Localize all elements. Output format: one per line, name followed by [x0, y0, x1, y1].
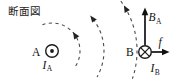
cross-section-diagram: 断面図 A IA B IB BA f: [0, 0, 172, 82]
wire-a: A IA: [32, 45, 58, 73]
field-direction-arrowhead: [90, 16, 97, 23]
figure-caption: 断面図: [8, 5, 40, 17]
field-line-arc-middle: [93, 19, 104, 77]
force-vector-f: f: [152, 36, 170, 56]
current-a-label: IA: [42, 59, 53, 74]
point-b-label: B: [126, 46, 134, 58]
up-arrowhead-icon: [142, 8, 149, 16]
wire-b: B IB: [126, 46, 160, 77]
field-vector-label: BA: [149, 11, 163, 26]
field-lines: [42, 1, 137, 79]
point-a-label: A: [32, 46, 41, 58]
field-direction-arrowhead: [73, 32, 79, 40]
right-arrowhead-icon: [162, 49, 170, 56]
current-out-dot-icon: [50, 49, 54, 53]
force-vector-label: f: [159, 36, 164, 49]
current-b-label: IB: [150, 62, 160, 77]
field-line-arc-outer: [121, 1, 137, 79]
field-direction-arrowhead: [124, 5, 130, 13]
